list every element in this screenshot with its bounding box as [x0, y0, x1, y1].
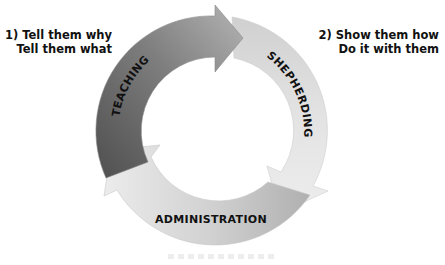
label-administration: ADMINISTRATION: [155, 213, 267, 226]
illegible-caption: [168, 254, 278, 259]
segment-shepherding: [232, 17, 328, 213]
cycle-diagram: TEACHING SHEPHERDING ADMINISTRATION: [0, 0, 445, 265]
